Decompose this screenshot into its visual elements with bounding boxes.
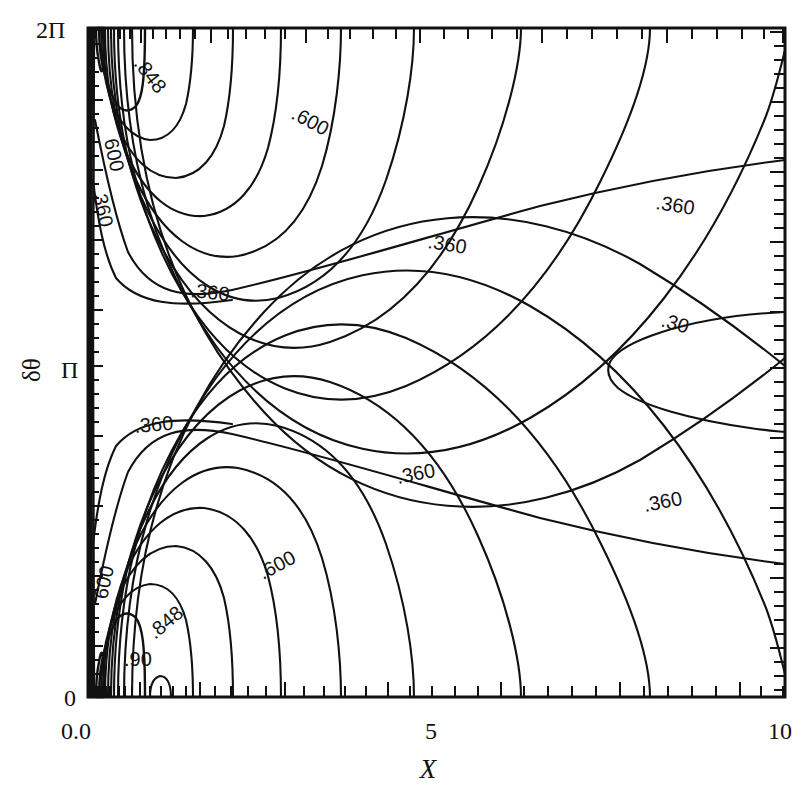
axis-tick-labels: 2Π Π 0 0.0 5 10 — [36, 17, 792, 744]
contour-label-30-right: .30 — [659, 309, 692, 338]
x-tick-label-5: 5 — [425, 718, 437, 744]
contour-label-90-bottom: .90 — [124, 648, 152, 670]
y-axis-title: δθ — [18, 358, 45, 382]
contour-label-600-top: .600 — [288, 102, 333, 140]
contour-label-600-bottom: .600 — [255, 546, 300, 584]
contour-label-360-upperleft: .360 — [190, 279, 231, 305]
contour-label-360-lowerright: .360 — [642, 487, 684, 516]
y-tick-label-pi: Π — [61, 357, 78, 383]
contour-label-848-top: .848 — [130, 53, 171, 97]
contour-lobe-030 — [608, 312, 785, 432]
y-tick-label-0: 0 — [64, 685, 76, 711]
contour-label-360-topmid: .360 — [426, 230, 468, 258]
contour-group-top — [93, 28, 785, 507]
contour-label-360-lowermid: .360 — [395, 459, 437, 488]
x-tick-label-10: 10 — [768, 718, 792, 744]
plot-frame — [88, 28, 785, 697]
y-tick-label-2pi: 2Π — [36, 17, 65, 43]
x-tick-label-0: 0.0 — [61, 718, 91, 744]
contour-label-360-topright: .360 — [654, 191, 696, 219]
x-axis-title: X — [419, 754, 438, 784]
contour-label-360-lowerleft: .360 — [133, 412, 174, 437]
contour-figure: .848 .600 600 .360 .360 .360 .360 .30 .3… — [0, 0, 811, 785]
contour-plot-svg: .848 .600 600 .360 .360 .360 .360 .30 .3… — [0, 0, 811, 785]
